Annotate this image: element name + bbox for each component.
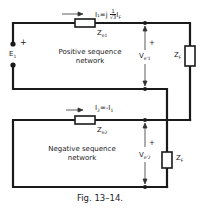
- figure-caption: Fig. 13–14.: [60, 194, 140, 203]
- impedance-ze2-label: Ze2: [97, 127, 107, 136]
- ve1-plus-sign: +: [149, 40, 155, 47]
- impedance-ze1-label: Ze1: [97, 30, 107, 39]
- e1-terminal-top: [10, 41, 15, 46]
- e1-plus-sign: +: [20, 39, 27, 47]
- pos-bottom-wire: [13, 65, 167, 152]
- impedance-zf-bottom: [162, 152, 172, 168]
- pos-top-right-wire: [95, 23, 190, 46]
- impedance-ze1: [75, 19, 95, 27]
- positive-network-label: Positive sequence network: [50, 49, 130, 65]
- ve2-plus-sign: +: [149, 140, 155, 147]
- ve1-voltage-label: Ve'1: [139, 53, 151, 62]
- impedance-zf-top: [185, 46, 195, 66]
- zf-bottom-label: ZF: [176, 155, 183, 164]
- negative-network-label: Negative sequence network: [42, 146, 122, 162]
- e1-terminal-bottom: [10, 62, 15, 67]
- e1-source-label: E1: [9, 51, 16, 60]
- zf-top-label: ZF: [174, 52, 181, 61]
- node-neg-top: [143, 118, 147, 122]
- current-i2-label: I2=-I1: [95, 105, 113, 114]
- node-pos-top: [143, 21, 147, 25]
- current-i1-label: I₁=j 1 √3 IF: [95, 9, 121, 21]
- node-neg-bottom: [143, 185, 147, 189]
- impedance-ze2: [75, 116, 95, 124]
- node-pos-bottom: [143, 87, 147, 91]
- ve2-voltage-label: Ve'2: [139, 152, 151, 161]
